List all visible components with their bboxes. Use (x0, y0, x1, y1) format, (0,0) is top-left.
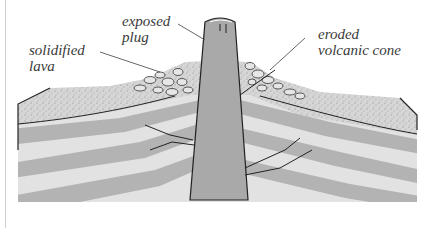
label-solidified-lava: solidified lava (29, 42, 85, 74)
label-exposed-plug: exposed plug (122, 13, 170, 45)
label-eroded-volcanic-cone: eroded volcanic cone (318, 26, 401, 58)
volcanic-plug (190, 18, 248, 200)
diagram-frame: solidified lava exposed plug eroded volc… (0, 0, 431, 230)
